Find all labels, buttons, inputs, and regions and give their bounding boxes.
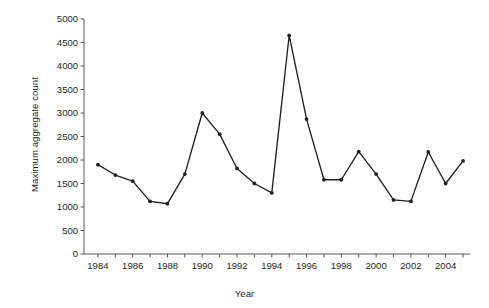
x-axis: 1984198619881990199219941996199820002002… — [84, 254, 470, 271]
x-tick-label: 1988 — [157, 260, 178, 271]
y-tick-label: 2500 — [57, 131, 78, 142]
data-point — [166, 202, 170, 206]
data-point — [287, 34, 291, 38]
data-point — [200, 111, 204, 115]
data-point — [426, 150, 430, 154]
data-point — [357, 150, 361, 154]
x-tick-label: 2000 — [366, 260, 387, 271]
data-point — [322, 178, 326, 182]
data-point — [218, 132, 222, 136]
y-tick-label: 3500 — [57, 84, 78, 95]
data-point — [305, 117, 309, 121]
x-tick-label: 1996 — [296, 260, 317, 271]
data-point — [461, 159, 465, 163]
y-tick-label: 1500 — [57, 178, 78, 189]
data-point — [235, 167, 239, 171]
y-axis: 0500100015002000250030003500400045005000 — [57, 13, 84, 259]
data-series — [96, 34, 465, 206]
x-tick-label: 2002 — [400, 260, 421, 271]
y-tick-label: 4500 — [57, 37, 78, 48]
line-chart: Maximum aggregate count 0500100015002000… — [0, 0, 489, 308]
x-tick-label: 1990 — [192, 260, 213, 271]
data-point — [409, 199, 413, 203]
x-tick-label: 1998 — [331, 260, 352, 271]
data-point — [270, 191, 274, 195]
data-point — [113, 173, 117, 177]
y-tick-label: 5000 — [57, 13, 78, 24]
y-tick-label: 4000 — [57, 60, 78, 71]
series-line — [98, 35, 463, 203]
data-point — [253, 182, 257, 186]
y-tick-label: 2000 — [57, 154, 78, 165]
y-tick-label: 500 — [62, 225, 78, 236]
x-tick-label: 1984 — [87, 260, 108, 271]
data-point — [131, 179, 135, 183]
plot-area: 0500100015002000250030003500400045005000… — [0, 0, 489, 308]
x-tick-label: 1986 — [122, 260, 143, 271]
y-tick-label: 1000 — [57, 201, 78, 212]
x-tick-label: 2004 — [435, 260, 456, 271]
data-point — [444, 182, 448, 186]
x-tick-label: 1992 — [226, 260, 247, 271]
data-point — [183, 172, 187, 176]
x-axis-title: Year — [0, 288, 489, 299]
x-tick-label: 1994 — [261, 260, 282, 271]
data-point — [96, 163, 100, 167]
data-point — [148, 199, 152, 203]
data-point — [339, 178, 343, 182]
y-tick-label: 3000 — [57, 107, 78, 118]
data-point — [392, 198, 396, 202]
y-tick-label: 0 — [73, 248, 78, 259]
data-point — [374, 172, 378, 176]
